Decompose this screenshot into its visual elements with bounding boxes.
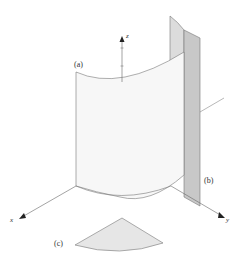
z-axis-label: z — [125, 32, 129, 40]
x-axis-arrow-icon — [19, 213, 26, 219]
sector-c — [75, 218, 163, 251]
label-b: (b) — [204, 176, 214, 185]
line-through-plane — [200, 98, 224, 112]
plane-b — [184, 30, 200, 206]
label-a: (a) — [74, 60, 83, 69]
x-axis — [22, 186, 76, 217]
x-axis-label: x — [9, 216, 14, 224]
y-axis-label: y — [225, 216, 230, 224]
y-axis-arrow-icon — [218, 212, 225, 218]
label-c: (c) — [54, 239, 63, 248]
surface-a — [76, 52, 184, 199]
diagram-canvas: z x y (a) (b) (c) — [0, 0, 237, 268]
z-axis-arrow-icon — [120, 36, 125, 42]
